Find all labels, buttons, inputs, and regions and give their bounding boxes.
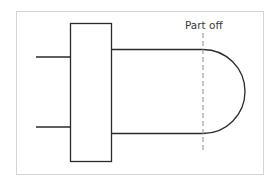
part-off-diagram: Part off — [0, 0, 276, 180]
diagram-frame — [17, 12, 264, 175]
part-off-label: Part off — [185, 19, 223, 31]
chuck-jaw-block — [71, 24, 112, 162]
